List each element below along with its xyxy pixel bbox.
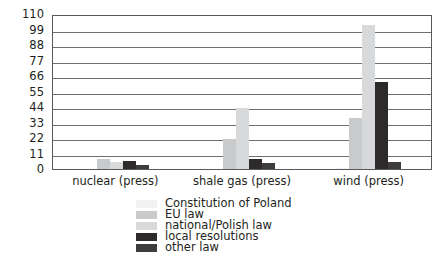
bars-layer bbox=[53, 16, 431, 169]
plot-area bbox=[52, 15, 432, 170]
bar[interactable] bbox=[110, 162, 123, 169]
y-tick-label: 77 bbox=[29, 56, 44, 68]
x-axis: nuclear (press)shale gas (press)wind (pr… bbox=[52, 174, 432, 190]
bar[interactable] bbox=[249, 159, 262, 169]
legend-swatch-icon bbox=[136, 244, 157, 252]
legend-swatch-icon bbox=[136, 200, 157, 208]
x-axis-label-1: shale gas (press) bbox=[179, 174, 306, 190]
bar-chart: 0112233445566778899110 nuclear (press)sh… bbox=[0, 0, 444, 273]
y-tick-label: 33 bbox=[29, 118, 44, 130]
y-tick-label: 11 bbox=[29, 149, 44, 161]
legend-swatch-icon bbox=[136, 222, 157, 230]
bar-group bbox=[84, 16, 149, 169]
y-tick-label: 22 bbox=[29, 133, 44, 145]
bar[interactable] bbox=[97, 159, 110, 169]
bar[interactable] bbox=[375, 82, 388, 169]
bar[interactable] bbox=[223, 139, 236, 169]
bar[interactable] bbox=[336, 168, 349, 169]
legend-label: other law bbox=[165, 242, 219, 254]
bar[interactable] bbox=[262, 163, 275, 169]
bar[interactable] bbox=[349, 118, 362, 169]
x-axis-label-2: wind (press) bbox=[305, 174, 432, 190]
bar[interactable] bbox=[136, 165, 149, 169]
bar-group bbox=[210, 16, 275, 169]
x-axis-label-0: nuclear (press) bbox=[52, 174, 179, 190]
legend-swatch-icon bbox=[136, 233, 157, 241]
y-tick-label: 66 bbox=[29, 71, 44, 83]
bar[interactable] bbox=[236, 108, 249, 169]
bar[interactable] bbox=[388, 162, 401, 169]
y-tick-label: 0 bbox=[37, 164, 44, 176]
y-tick-label: 88 bbox=[29, 40, 44, 52]
legend-item[interactable]: other law bbox=[136, 242, 356, 253]
y-tick-label: 44 bbox=[29, 102, 44, 114]
legend-swatch-icon bbox=[136, 211, 157, 219]
y-tick-label: 99 bbox=[29, 25, 44, 37]
bar-group bbox=[336, 16, 401, 169]
legend: Constitution of PolandEU lawnational/Pol… bbox=[136, 198, 356, 253]
y-tick-label: 55 bbox=[29, 87, 44, 99]
bar[interactable] bbox=[123, 161, 136, 169]
y-axis: 0112233445566778899110 bbox=[0, 15, 48, 170]
y-tick-label: 110 bbox=[22, 9, 44, 21]
bar[interactable] bbox=[362, 25, 375, 169]
